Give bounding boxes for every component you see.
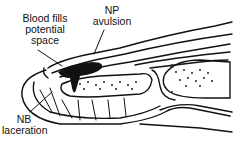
leader-blood (38, 50, 62, 66)
hematoma (58, 62, 102, 93)
label-np-avulsion: NP avulsion (92, 5, 132, 27)
label-blood-fills-potential-space: Blood fills potential space (14, 13, 76, 46)
leader-nb (30, 92, 52, 112)
label-line: avulsion (92, 16, 132, 27)
leader-np (94, 30, 104, 54)
label-line: laceration (2, 125, 46, 136)
label-nb-laceration: NB laceration (2, 114, 46, 136)
label-line: space (14, 35, 76, 46)
